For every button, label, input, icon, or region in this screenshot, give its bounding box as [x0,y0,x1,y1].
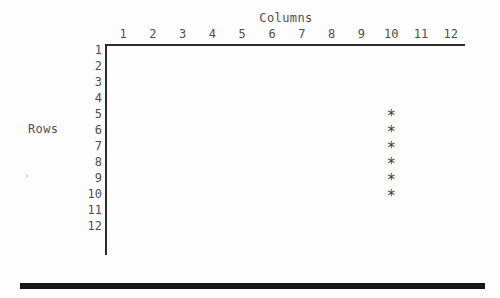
column-tick-label: 7 [287,27,317,41]
data-point-marker: * [384,154,398,170]
column-tick-label: 1 [108,27,138,41]
scan-speck-artifact [26,175,28,177]
columns-axis-title: Columns [106,11,466,25]
column-tick-label: 2 [138,27,168,41]
column-tick-label: 12 [436,27,466,41]
row-tick-label: 7 [95,138,102,154]
bottom-horizontal-rule [20,283,485,289]
rows-axis-title: Rows [28,122,59,136]
row-tick-label: 3 [95,74,102,90]
plot-area: ****** [106,45,465,255]
column-tick-label: 10 [376,27,406,41]
column-tick-label: 6 [257,27,287,41]
column-tick-label: 4 [197,27,227,41]
column-tick-label: 8 [317,27,347,41]
data-point-marker: * [384,186,398,202]
data-point-marker: * [384,122,398,138]
row-tick-label: 10 [88,186,102,202]
row-tick-label: 11 [88,202,102,218]
data-point-marker: * [384,170,398,186]
column-tick-label: 11 [406,27,436,41]
column-tick-label: 3 [168,27,198,41]
row-tick-label: 8 [95,154,102,170]
row-tick-label: 2 [95,58,102,74]
row-tick-label: 1 [95,42,102,58]
row-tick-label: 5 [95,106,102,122]
grid-plot-figure: Columns Rows 123456789101112 12345678910… [0,0,500,298]
row-tick-label: 4 [95,90,102,106]
column-tick-label: 9 [346,27,376,41]
data-point-marker: * [384,138,398,154]
row-tick-label: 9 [95,170,102,186]
column-tick-label: 5 [227,27,257,41]
row-tick-label: 6 [95,122,102,138]
row-tick-label: 12 [88,218,102,234]
data-point-marker: * [384,106,398,122]
